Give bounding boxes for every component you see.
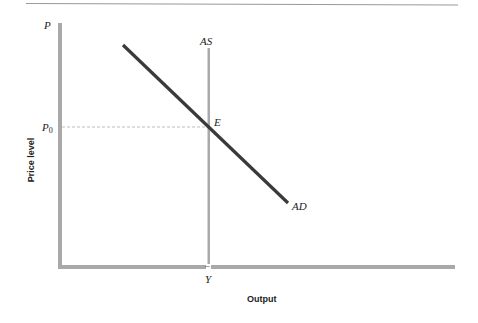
p-axis-label: P [43,19,51,31]
p0-label: P0 [41,121,53,135]
x-axis-title: Output [247,294,277,304]
output-axis [58,265,455,269]
equilibrium-label: E [213,116,221,128]
ad-label: AD [291,200,307,212]
as-curve [208,48,211,265]
y-axis-title: Price level [26,138,36,183]
price-axis [58,23,62,269]
ad-curve [123,45,288,203]
ybar-overbar: ‾ [205,265,210,277]
as-ad-diagram: P P0 AS E AD Y ‾ Output Price level [0,0,478,323]
top-rule [26,4,458,6]
as-label: AS [199,35,213,47]
p0-subscript: 0 [49,126,53,135]
